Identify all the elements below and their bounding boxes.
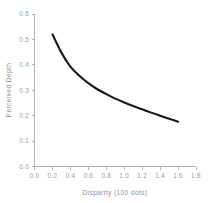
x-tick-label: 1.8 [191, 172, 201, 179]
x-tick-label: 0.6 [83, 172, 93, 179]
chart-figure: 0.00.10.20.30.40.50.6 Perceived Depth 0.… [0, 0, 209, 203]
y-axis-title: Perceived Depth [5, 63, 13, 118]
y-tick-label: 0.2 [19, 112, 29, 119]
y-tick-label: 0.6 [19, 10, 29, 17]
x-tick-label: 1.2 [137, 172, 147, 179]
perceived-depth-line-chart: 0.00.10.20.30.40.50.6 Perceived Depth 0.… [0, 0, 209, 203]
x-tick-label: 1.6 [173, 172, 183, 179]
x-tick-label: 0.0 [30, 172, 40, 179]
y-tick-label: 0.0 [19, 163, 29, 170]
x-tick-label: 1.0 [119, 172, 129, 179]
y-tick-label: 0.5 [19, 36, 29, 43]
x-tick-label: 0.4 [65, 172, 75, 179]
x-tick-label: 0.8 [101, 172, 111, 179]
y-tick-label: 0.3 [19, 87, 29, 94]
x-tick-label: 0.2 [48, 172, 58, 179]
y-tick-label: 0.4 [19, 61, 29, 68]
y-tick-label: 0.1 [19, 137, 29, 144]
x-axis-title: Disparity (100 dots) [82, 189, 147, 197]
x-tick-label: 1.4 [155, 172, 165, 179]
